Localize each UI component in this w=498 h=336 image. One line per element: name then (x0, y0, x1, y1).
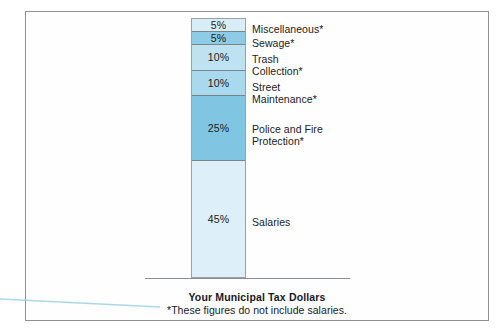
stacked-bar-chart: 5% 5% 10% 10% 25% 45% Miscellaneous* Sew… (0, 0, 498, 336)
bar-stack: 5% 5% 10% 10% 25% 45% (191, 18, 246, 278)
segment-value-street-maintenance: 10% (208, 78, 229, 89)
segment-label-street-maintenance: Street Maintenance* (252, 82, 317, 105)
segment-label-police-and-fire-protection: Police and Fire Protection* (252, 124, 323, 147)
bar-segment-salaries: 45% (192, 161, 245, 277)
caption-footnote: *These figures do not include salaries. (25, 304, 489, 317)
segment-label-trash-collection: Trash Collection* (252, 54, 303, 77)
segment-value-trash-collection: 10% (208, 52, 229, 63)
bar-segment-sewage: 5% (192, 32, 245, 45)
segment-value-police-and-fire-protection: 25% (208, 123, 229, 134)
bar-segment-street-maintenance: 10% (192, 71, 245, 97)
segment-label-salaries: Salaries (252, 217, 290, 229)
segment-value-sewage: 5% (211, 33, 226, 44)
segment-label-miscellaneous: Miscellaneous* (252, 24, 323, 36)
chart-baseline (145, 278, 350, 279)
segment-value-miscellaneous: 5% (211, 20, 226, 31)
segment-label-sewage: Sewage* (252, 38, 294, 50)
caption-title: Your Municipal Tax Dollars (25, 291, 489, 304)
bar-segment-miscellaneous: 5% (192, 19, 245, 32)
bar-segment-police-and-fire-protection: 25% (192, 96, 245, 161)
chart-caption: Your Municipal Tax Dollars *These figure… (25, 291, 489, 317)
segment-value-salaries: 45% (208, 214, 229, 225)
bar-segment-trash-collection: 10% (192, 45, 245, 71)
